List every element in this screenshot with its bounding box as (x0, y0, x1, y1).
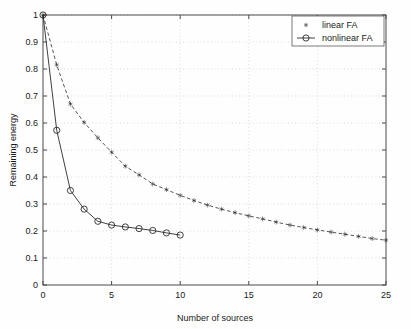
y-axis-ticks: 00.10.20.30.40.50.60.70.80.91 (25, 10, 386, 290)
x-tick-label: 15 (244, 290, 254, 300)
data-point-marker (178, 193, 182, 198)
x-tick-label: 0 (40, 290, 45, 300)
data-point-marker (137, 172, 141, 177)
data-point-marker (192, 198, 196, 203)
x-tick-label: 25 (381, 290, 391, 300)
data-point-marker (55, 63, 59, 68)
series-linear-fa (41, 13, 388, 243)
series-line-nonlinear-fa (43, 15, 180, 235)
x-axis-ticks: 0510152025 (40, 15, 391, 300)
data-point-marker (384, 238, 388, 243)
y-tick-label: 0.5 (25, 145, 38, 155)
data-point-marker (206, 203, 210, 208)
legend-label: nonlinear FA (322, 33, 373, 43)
y-tick-label: 0.8 (25, 64, 38, 74)
remaining-energy-line-chart: 0510152025 00.10.20.30.40.50.60.70.80.91… (0, 0, 411, 329)
y-axis-label: Remaining energy (8, 113, 18, 187)
y-tick-label: 0.1 (25, 253, 38, 263)
chart-figure: 0510152025 00.10.20.30.40.50.60.70.80.91… (0, 0, 411, 329)
series-line-linear-fa (43, 15, 386, 240)
y-tick-label: 0 (33, 280, 38, 290)
x-tick-label: 10 (175, 290, 185, 300)
data-point-marker (151, 182, 155, 187)
y-tick-label: 1 (33, 10, 38, 20)
data-point-marker (164, 187, 168, 192)
y-tick-label: 0.4 (25, 172, 38, 182)
y-tick-label: 0.9 (25, 37, 38, 47)
y-tick-label: 0.2 (25, 226, 38, 236)
data-point-marker (68, 102, 72, 107)
x-axis-label: Number of sources (177, 313, 254, 323)
y-tick-label: 0.7 (25, 91, 38, 101)
y-tick-label: 0.3 (25, 199, 38, 209)
grid-lines (43, 15, 386, 285)
x-tick-label: 5 (109, 290, 114, 300)
data-point-marker (82, 120, 86, 125)
x-tick-label: 20 (312, 290, 322, 300)
chart-legend: linear FAnonlinear FA (292, 16, 384, 46)
legend-label: linear FA (322, 20, 358, 30)
y-tick-label: 0.6 (25, 118, 38, 128)
